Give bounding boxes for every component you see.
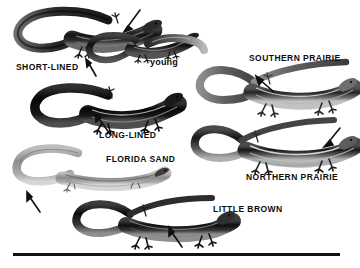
label-northern-prairie: NORTHERN PRAIRIE bbox=[246, 173, 338, 182]
pointer-little-brown bbox=[169, 227, 182, 247]
label-young: young bbox=[150, 58, 178, 67]
pointer-arrow-layer bbox=[0, 0, 360, 268]
label-florida-sand: FLORIDA SAND bbox=[106, 155, 175, 164]
pointer-florida-sand-leg bbox=[27, 192, 40, 212]
label-southern-prairie: SOUTHERN PRAIRIE bbox=[249, 54, 341, 63]
label-long-lined: LONG-LINED bbox=[99, 131, 156, 140]
label-short-lined: SHORT-LINED bbox=[16, 63, 79, 72]
pointer-short-lined-body bbox=[86, 59, 96, 76]
skink-identification-plate: SHORT-LINED young SOUTHERN PRAIRIE LONG-… bbox=[0, 0, 360, 268]
pointer-southern-prairie bbox=[256, 76, 274, 92]
baseline-rule bbox=[13, 253, 340, 256]
pointer-northern-prairie bbox=[324, 128, 340, 147]
pointer-short-lined-head bbox=[124, 10, 140, 32]
label-little-brown: LITTLE BROWN bbox=[213, 205, 283, 214]
